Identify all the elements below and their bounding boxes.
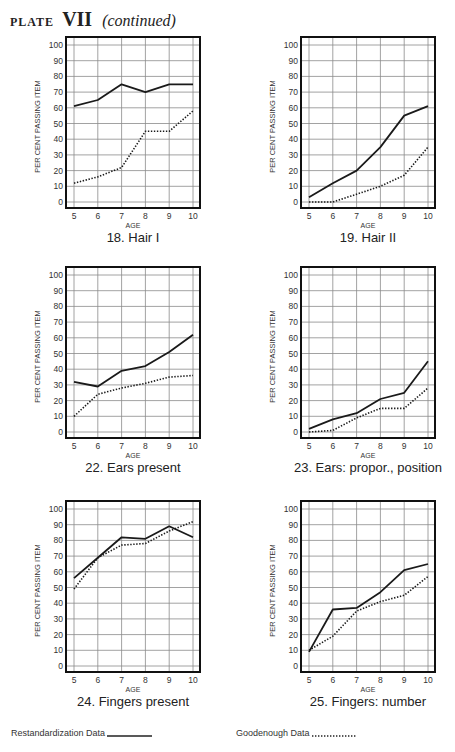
y-tick-label: 90 (289, 520, 299, 530)
y-tick-label: 30 (54, 150, 64, 160)
x-tick-label: 7 (119, 675, 124, 685)
y-tick-label: 30 (289, 380, 299, 390)
y-tick-label: 100 (284, 504, 298, 514)
legend-dotted-label: Goodenough Data (236, 728, 310, 738)
x-tick-label: 10 (188, 675, 198, 685)
legend-dotted: Goodenough Data (236, 728, 357, 738)
y-axis-label: PER CENT PASSING ITEM (268, 310, 277, 403)
x-tick-label: 7 (354, 211, 359, 221)
chart-plot: 01020304050607080901005678910AGEPER CENT… (0, 464, 230, 699)
y-axis-label: PER CENT PASSING ITEM (268, 544, 277, 637)
chart-ears-proportion-position: 01020304050607080901005678910AGEPER CENT… (235, 230, 455, 465)
x-tick-label: 7 (119, 211, 124, 221)
y-tick-label: 100 (284, 40, 298, 50)
x-axis-label: AGE (126, 452, 141, 459)
y-tick-label: 70 (54, 551, 64, 561)
y-tick-label: 20 (289, 630, 299, 640)
x-tick-label: 6 (330, 211, 335, 221)
x-tick-label: 7 (354, 441, 359, 451)
y-axis-label: PER CENT PASSING ITEM (33, 80, 42, 173)
y-tick-label: 90 (54, 56, 64, 66)
x-tick-label: 9 (167, 675, 172, 685)
y-tick-label: 40 (289, 364, 299, 374)
y-tick-label: 80 (289, 71, 299, 81)
y-tick-label: 10 (54, 411, 64, 421)
y-tick-label: 0 (293, 661, 298, 671)
chart-fingers-number: 01020304050607080901005678910AGEPER CENT… (235, 464, 455, 699)
x-tick-label: 8 (143, 211, 148, 221)
grid (301, 267, 435, 438)
x-axis-label: AGE (361, 222, 376, 229)
y-tick-label: 0 (293, 427, 298, 437)
x-tick-label: 5 (307, 441, 312, 451)
x-tick-label: 6 (330, 441, 335, 451)
y-tick-label: 20 (289, 166, 299, 176)
series-restandardization-line (309, 361, 428, 429)
y-tick-label: 0 (58, 661, 63, 671)
x-tick-label: 10 (188, 211, 198, 221)
y-tick-label: 60 (54, 333, 64, 343)
y-tick-label: 60 (54, 103, 64, 113)
plot-frame (66, 501, 200, 672)
series-restandardization-line (74, 335, 193, 387)
y-axis-label: PER CENT PASSING ITEM (33, 310, 42, 403)
x-tick-label: 9 (167, 211, 172, 221)
chart-plot: 01020304050607080901005678910AGEPER CENT… (0, 230, 230, 465)
series-restandardization-line (309, 564, 428, 652)
x-tick-label: 8 (143, 675, 148, 685)
series-goodenough-line (74, 111, 193, 183)
y-tick-label: 50 (54, 583, 64, 593)
chart-caption: 25. Fingers: number (310, 694, 426, 709)
x-tick-label: 6 (95, 675, 100, 685)
y-tick-label: 70 (54, 317, 64, 327)
y-tick-label: 60 (289, 333, 299, 343)
plot-frame (301, 37, 435, 208)
chart-fingers-present: 01020304050607080901005678910AGEPER CENT… (0, 464, 230, 699)
legend-solid-label: Restandardization Data (11, 728, 105, 738)
y-tick-label: 0 (58, 427, 63, 437)
y-tick-label: 20 (54, 630, 64, 640)
y-tick-label: 0 (58, 197, 63, 207)
y-tick-label: 70 (289, 317, 299, 327)
x-axis-label: AGE (126, 686, 141, 693)
x-tick-label: 10 (423, 675, 433, 685)
x-tick-label: 9 (402, 441, 407, 451)
legend-solid: Restandardization Data (11, 728, 152, 738)
y-tick-label: 30 (289, 150, 299, 160)
y-tick-label: 40 (289, 134, 299, 144)
x-tick-label: 6 (95, 441, 100, 451)
x-tick-label: 5 (307, 211, 312, 221)
y-tick-label: 30 (54, 614, 64, 624)
y-tick-label: 20 (54, 396, 64, 406)
x-tick-label: 6 (95, 211, 100, 221)
y-tick-label: 0 (293, 197, 298, 207)
chart-plot: 01020304050607080901005678910AGEPER CENT… (235, 464, 455, 699)
x-tick-label: 9 (402, 675, 407, 685)
y-tick-label: 60 (289, 567, 299, 577)
y-tick-label: 70 (289, 551, 299, 561)
x-tick-label: 5 (72, 211, 77, 221)
y-tick-label: 90 (289, 56, 299, 66)
series-goodenough-line (74, 376, 193, 417)
x-tick-label: 7 (119, 441, 124, 451)
x-tick-label: 9 (402, 211, 407, 221)
chart-ears-present: 01020304050607080901005678910AGEPER CENT… (0, 230, 230, 465)
y-axis-label: PER CENT PASSING ITEM (33, 544, 42, 637)
series-restandardization-line (309, 106, 428, 197)
y-tick-label: 90 (54, 520, 64, 530)
chart-plot: 01020304050607080901005678910AGEPER CENT… (235, 230, 455, 465)
plot-frame (301, 267, 435, 438)
y-tick-label: 10 (289, 645, 299, 655)
y-tick-label: 80 (289, 301, 299, 311)
series-restandardization-line (74, 84, 193, 106)
plot-frame (66, 267, 200, 438)
y-tick-label: 70 (289, 87, 299, 97)
plot-frame (66, 37, 200, 208)
y-tick-label: 60 (54, 567, 64, 577)
x-tick-label: 10 (423, 211, 433, 221)
y-tick-label: 80 (54, 301, 64, 311)
y-tick-label: 80 (54, 71, 64, 81)
y-tick-label: 90 (289, 286, 299, 296)
x-tick-label: 8 (378, 675, 383, 685)
y-tick-label: 20 (289, 396, 299, 406)
